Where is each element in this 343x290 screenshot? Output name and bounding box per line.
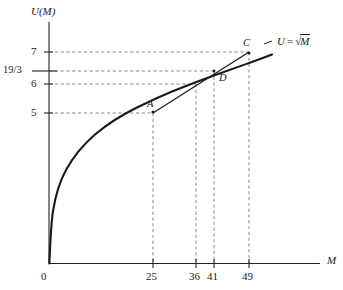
x-axis-label: M	[327, 255, 336, 266]
y-axis-label: U(M)	[31, 6, 55, 17]
chord-line-AC	[153, 52, 249, 113]
x-tick-label-0: 0	[41, 271, 47, 282]
sqrt-icon: √M	[295, 36, 310, 47]
x-tick-label-36: 36	[189, 271, 200, 282]
x-tick-label-41: 41	[207, 271, 218, 282]
y-tick-label-5: 5	[31, 107, 37, 118]
curve-label-leader	[264, 41, 272, 44]
y-tick-label-19-over-3: 19/3	[3, 65, 22, 76]
y-tick-label-6: 6	[31, 78, 37, 89]
curve-equals-symbol: =	[285, 35, 295, 47]
point-label-A: A	[147, 99, 153, 110]
x-tick-label-25: 25	[146, 271, 157, 282]
axes-group	[49, 22, 320, 264]
y-tick-label-7: 7	[31, 46, 37, 57]
sqrt-curve	[49, 55, 272, 264]
point-label-D: D	[219, 73, 227, 84]
point-A-marker	[152, 111, 155, 114]
x-tick-label-49: 49	[242, 271, 253, 282]
curve-equation-label: U=√M	[277, 36, 310, 47]
point-D-marker	[213, 70, 216, 73]
radicand-m: M	[300, 34, 310, 47]
point-C-marker	[248, 52, 251, 55]
curve-u-symbol: U	[277, 35, 285, 47]
point-label-C: C	[243, 38, 250, 49]
